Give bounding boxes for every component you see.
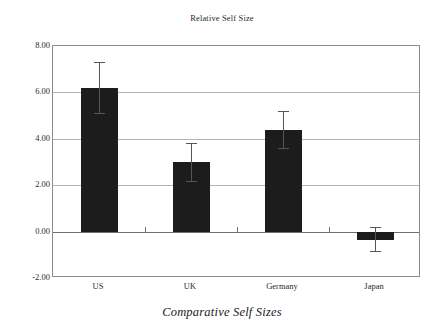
chart-caption: Comparative Self Sizes xyxy=(0,305,444,320)
y-axis-tick-label: 4.00 xyxy=(4,133,50,143)
y-axis-tick-label: 2.00 xyxy=(4,179,50,189)
y-axis-tick-label: 0.00 xyxy=(4,226,50,236)
x-axis-tick-mark xyxy=(329,227,330,232)
error-bar-stem-us xyxy=(99,62,100,113)
y-axis-tick-label: 8.00 xyxy=(4,40,50,50)
error-bar-stem-uk xyxy=(191,143,192,180)
x-axis-label-japan: Japan xyxy=(364,281,383,291)
plot-area xyxy=(52,45,420,277)
error-bar-cap-lower-uk xyxy=(186,181,197,182)
chart-title: Relative Self Size xyxy=(0,13,444,23)
error-bar-cap-upper-japan xyxy=(370,227,381,228)
y-axis-tick-label: 6.00 xyxy=(4,86,50,96)
error-bar-stem-germany xyxy=(283,111,284,148)
error-bar-cap-lower-us xyxy=(94,113,105,114)
x-axis-label-uk: UK xyxy=(184,281,196,291)
error-bar-cap-upper-uk xyxy=(186,143,197,144)
error-bar-cap-lower-japan xyxy=(370,251,381,252)
x-axis-labels: USUKGermanyJapan xyxy=(52,281,420,297)
error-bar-stem-japan xyxy=(375,227,376,251)
y-axis-labels: 8.006.004.002.000.00-2.00 xyxy=(0,45,50,277)
x-axis-tick-mark xyxy=(145,227,146,232)
error-bar-cap-upper-germany xyxy=(278,111,289,112)
x-axis-label-us: US xyxy=(93,281,104,291)
error-bar-cap-upper-us xyxy=(94,62,105,63)
x-axis-label-germany: Germany xyxy=(266,281,298,291)
error-bar-cap-lower-germany xyxy=(278,148,289,149)
x-axis-tick-mark xyxy=(237,227,238,232)
y-axis-tick-label: -2.00 xyxy=(4,272,50,282)
